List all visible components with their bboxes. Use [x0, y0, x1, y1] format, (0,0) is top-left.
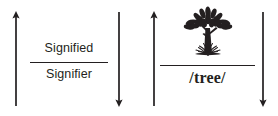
panel-signified-signifier: Signified Signifier	[0, 0, 140, 116]
right-panel-up-arrow-icon	[147, 10, 161, 108]
tree-illustration-icon	[178, 6, 238, 63]
signified-label: Signified	[30, 42, 108, 55]
left-panel-up-arrow-icon	[9, 10, 23, 108]
right-panel-down-arrow-icon	[256, 10, 270, 108]
signified-signifier-divider	[30, 62, 108, 63]
signifier-label: Signifier	[30, 68, 108, 81]
semiotics-diagram: Signified Signifier	[0, 0, 278, 116]
tree-phoneme-label: /tree/	[160, 70, 255, 86]
panel-tree: /tree/	[140, 0, 278, 116]
left-panel-down-arrow-icon	[112, 10, 126, 108]
tree-divider	[160, 65, 255, 66]
